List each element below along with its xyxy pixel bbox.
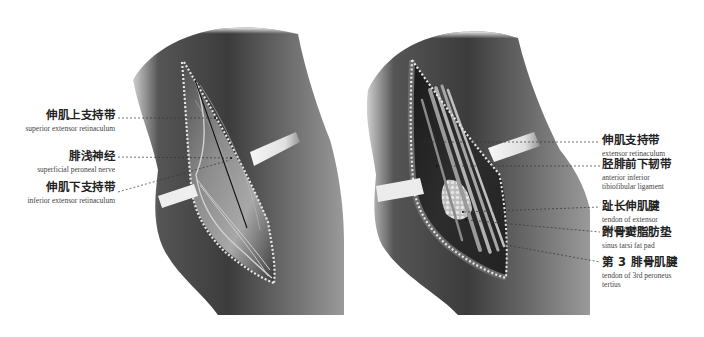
- label-extensor-retinaculum: 伸肌支持带 extensor retinaculum: [602, 135, 665, 158]
- right-ankle-figure: [364, 31, 590, 315]
- left-ankle-figure: [130, 27, 344, 315]
- label-anterior-inferior-tibiofibular-ligament: 胫腓前下韧带 anterior inferior tibiofibular li…: [602, 159, 671, 191]
- label-sinus-tarsi-fat-pad: 跗骨窦脂肪垫 sinus tarsi fat pad: [602, 227, 671, 250]
- label-superior-extensor-retinaculum: 伸肌上支持带 superior extensor retinaculum: [0, 110, 115, 133]
- label-superficial-peroneal-nerve: 腓浅神经 superficial peroneal nerve: [0, 151, 115, 174]
- label-tendon-peroneus-tertius: 第 3 腓骨肌腱 tendon of 3rd peroneus tertius: [602, 257, 677, 289]
- label-inferior-extensor-retinaculum: 伸肌下支持带 inferior extensor retinaculum: [0, 182, 115, 205]
